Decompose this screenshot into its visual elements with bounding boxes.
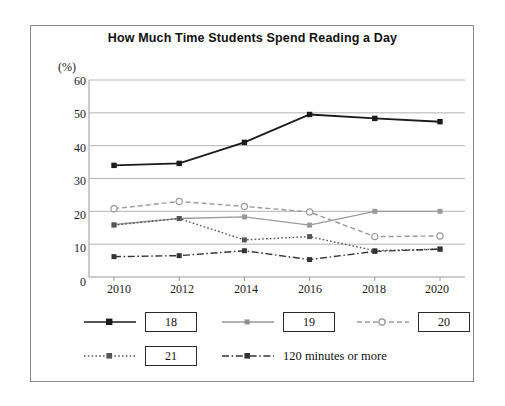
legend-item-120-minutes-or-more[interactable]: 120 minutes or more: [220, 343, 387, 369]
data-point-marker: [177, 253, 182, 258]
legend-item-20[interactable]: 20: [355, 309, 470, 335]
data-point-marker: [372, 234, 378, 240]
series-line-19: [114, 211, 440, 225]
legend-label-20: 20: [418, 312, 470, 332]
legend-label-18: 18: [145, 312, 197, 332]
data-point-marker: [307, 223, 312, 228]
legend-line-sample-20: [355, 314, 411, 330]
data-point-marker: [307, 209, 313, 215]
x-tick-marks: [114, 277, 440, 281]
legend: 18 19 20: [30, 305, 474, 375]
figure-root: How Much Time Students Spend Reading a D…: [0, 0, 505, 406]
data-point-marker: [307, 257, 312, 262]
legend-row-1: 18 19 20: [30, 309, 474, 335]
data-point-marker: [176, 198, 182, 204]
legend-item-21[interactable]: 21: [82, 343, 197, 369]
series-line-18: [114, 114, 440, 165]
data-point-marker: [112, 254, 117, 259]
data-point-marker: [437, 119, 442, 124]
data-point-marker: [177, 216, 182, 221]
data-point-marker: [307, 112, 312, 117]
data-point-marker: [242, 237, 247, 242]
legend-label-120-minutes-or-more: 120 minutes or more: [283, 349, 387, 364]
data-point-marker: [372, 116, 377, 121]
data-point-marker: [307, 234, 312, 239]
series-line-20: [114, 201, 440, 236]
series-line-21: [114, 219, 440, 251]
data-point-marker: [437, 233, 443, 239]
data-point-marker: [438, 247, 443, 252]
data-point-marker: [177, 161, 182, 166]
data-point-marker: [242, 248, 247, 253]
gridlines: [89, 80, 465, 277]
legend-line-sample-120-minutes: [220, 348, 276, 364]
legend-item-18[interactable]: 18: [82, 309, 197, 335]
legend-item-19[interactable]: 19: [220, 309, 335, 335]
series-layer: [111, 112, 443, 262]
data-point-marker: [242, 140, 247, 145]
data-point-marker: [241, 203, 247, 209]
data-point-marker: [242, 214, 247, 219]
data-point-marker: [112, 223, 117, 228]
legend-line-sample-18: [82, 314, 138, 330]
data-point-marker: [438, 209, 443, 214]
data-point-marker: [372, 209, 377, 214]
series-line-120-minutes-or-more: [114, 249, 440, 260]
legend-label-19: 19: [283, 312, 335, 332]
legend-label-21: 21: [145, 346, 197, 366]
data-point-marker: [372, 249, 377, 254]
legend-row-2: 21 120 minutes or more: [30, 343, 474, 369]
legend-line-sample-19: [220, 314, 276, 330]
data-point-marker: [111, 206, 117, 212]
data-point-marker: [111, 163, 116, 168]
legend-line-sample-21: [82, 348, 138, 364]
